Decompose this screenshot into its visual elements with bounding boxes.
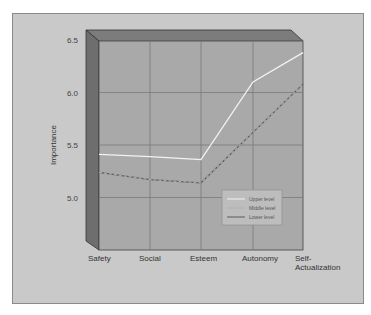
- x-category-label: Esteem: [190, 254, 217, 263]
- legend-label: Middle level: [249, 205, 275, 211]
- chart-left-wall: [86, 30, 99, 250]
- x-category-label: Autonomy: [242, 254, 278, 263]
- x-category-label: Social: [139, 254, 161, 263]
- legend-label: Upper level: [249, 196, 274, 202]
- y-axis-label: Importance: [49, 124, 58, 165]
- y-tick-label: 5.0: [67, 194, 79, 203]
- y-tick-label: 6.0: [67, 89, 79, 98]
- y-tick-label: 5.5: [67, 141, 79, 150]
- x-category-label: Safety: [88, 254, 111, 263]
- x-axis-categories: SafetySocialEsteemAutonomySelf-Actualiza…: [88, 254, 340, 272]
- y-axis-ticks: 5.05.56.06.5: [67, 36, 79, 203]
- legend: Upper levelMiddle levelLower level: [222, 190, 282, 225]
- x-category-label: Self-Actualization: [295, 254, 340, 272]
- y-tick-label: 6.5: [67, 36, 79, 45]
- chart-top-wall: [86, 30, 303, 41]
- legend-label: Lower level: [249, 214, 274, 220]
- line-chart: 5.05.56.06.5 SafetySocialEsteemAutonomyS…: [0, 0, 371, 315]
